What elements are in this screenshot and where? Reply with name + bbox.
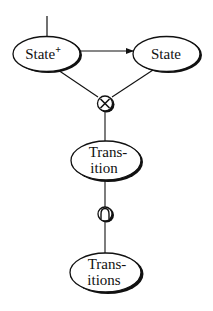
node-transition-label-line2: ition — [90, 160, 118, 176]
node-product-operator — [98, 96, 115, 113]
node-state-label: State — [151, 46, 181, 62]
diagram-canvas: State+ State Trans- ition Trans- itions — [0, 0, 213, 311]
node-state: State — [133, 37, 202, 74]
edge-state-plus-to-product — [58, 70, 98, 97]
node-transitions-label-line2: itions — [87, 272, 121, 288]
node-transitions: Trans- itions — [70, 253, 144, 294]
edge-state-to-product — [112, 70, 153, 97]
node-transition: Trans- ition — [71, 141, 143, 182]
node-transition-label-line1: Trans- — [89, 144, 128, 160]
node-intersection-operator — [98, 207, 114, 223]
node-state-plus: State+ — [13, 37, 82, 74]
node-transitions-label-line1: Trans- — [88, 256, 127, 272]
